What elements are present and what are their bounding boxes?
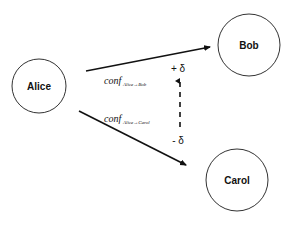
edge-alice-bob-arrow <box>86 47 210 71</box>
node-carol: Carol <box>206 149 268 211</box>
node-bob: Bob <box>218 14 280 76</box>
node-alice-label: Alice <box>27 81 51 92</box>
minus-delta-label: - δ <box>172 135 184 146</box>
edge-alice-bob-label: conf Alice→Bob <box>104 75 147 87</box>
edge-alice-carol-label: conf Alice→Carol <box>104 113 150 125</box>
node-alice: Alice <box>12 59 66 113</box>
trust-diagram: Alice Bob Carol conf Alice→Bob conf Alic… <box>0 0 293 225</box>
node-bob-label: Bob <box>239 40 258 51</box>
conf-label: conf <box>104 75 122 86</box>
conf-label: conf <box>104 113 122 124</box>
plus-delta-label: + δ <box>171 63 186 74</box>
conf-subscript: Alice→Carol <box>122 120 150 125</box>
conf-subscript: Alice→Bob <box>122 82 147 87</box>
node-carol-label: Carol <box>224 175 250 186</box>
